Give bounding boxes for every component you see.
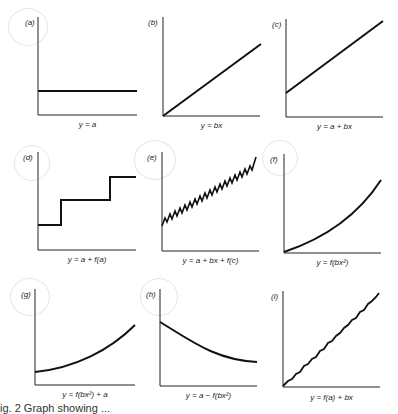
panel-label-e: (e) [147, 153, 157, 162]
curve-g [35, 325, 135, 372]
panel-label-h: (h) [146, 290, 156, 299]
axes-a [38, 17, 137, 115]
curve-e [162, 157, 256, 226]
panel-label-i: (i) [271, 292, 278, 301]
equation-g: y = f(bx²) + a [35, 390, 135, 399]
axes-c [286, 19, 383, 117]
axes-e [162, 152, 259, 251]
curve-d [38, 177, 136, 225]
equation-i: y = f(a) + bx [283, 393, 380, 402]
axes-b [163, 17, 260, 116]
panel-label-g: (g) [21, 290, 31, 299]
panel-label-b: (b) [148, 18, 158, 27]
equation-h: y = a − f(bx²) [160, 391, 257, 400]
equation-f: y = f(bx²) [284, 258, 381, 267]
equation-e: y = a + bx + f(c) [162, 256, 259, 265]
curve-i [283, 293, 379, 386]
curve-f [284, 180, 381, 252]
equation-c: y = a + bx [286, 122, 383, 131]
curve-h [160, 322, 257, 362]
axes-f [284, 154, 381, 253]
equation-b: y = bx [163, 121, 260, 130]
figure-caption: ig. 2 Graph showing ... [0, 402, 110, 414]
panel-label-f: (f) [270, 155, 278, 164]
equation-a: y = a [38, 120, 137, 129]
curve-c [286, 21, 383, 93]
panel-label-c: (c) [272, 20, 281, 29]
equation-d: y = a + f(a) [38, 255, 136, 264]
panel-label-a: (a) [25, 18, 35, 27]
panel-label-d: (d) [23, 153, 33, 162]
curve-b [163, 44, 261, 116]
axes-h [160, 289, 257, 386]
